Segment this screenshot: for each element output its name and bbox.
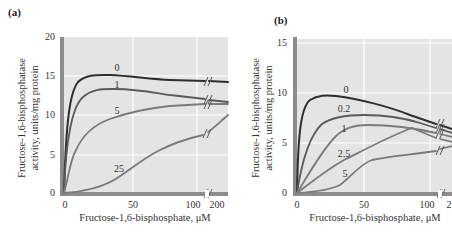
panel-b-curve-label-1: 1 <box>342 123 347 134</box>
panel-b-ytick-5: 5 <box>282 137 287 148</box>
panel-b-xtick-50: 50 <box>359 199 369 210</box>
panel-b-xtick-100: 100 <box>420 199 435 210</box>
panel-b-ytick-10: 10 <box>277 87 287 98</box>
panel-b-ytick-0: 0 <box>282 187 287 198</box>
panel-b-curve-label-0: 0 <box>344 84 349 95</box>
panel-a-curve-label-1: 1 <box>115 79 120 90</box>
panel-b-ytick-15: 15 <box>277 37 287 48</box>
panel-a-xtick-200: 200 <box>210 199 225 210</box>
panel-b-label: (b) <box>274 14 288 27</box>
panel-b-xtick-0: 0 <box>295 199 300 210</box>
panel-a-curve-label-5: 5 <box>115 105 120 116</box>
panel-b-curve-label-5: 5 <box>343 168 348 179</box>
panel-a-ytick-10: 10 <box>45 109 55 120</box>
panel-a-curve-label-0: 0 <box>115 62 120 73</box>
panel-a-curve-label-25: 25 <box>114 163 124 174</box>
panel-b-x-axis-title: Fructose-1,6-bisphosphate, μM <box>309 212 441 223</box>
panel-b-curve-label-0.2: 0.2 <box>338 103 351 114</box>
panel-a-x-axis <box>60 192 228 196</box>
panel-a-ytick-5: 5 <box>50 149 55 160</box>
panel-b-curve-label-2.5: 2.5 <box>338 148 351 159</box>
panel-a-ytick-15: 15 <box>45 70 55 81</box>
panel-b-x-axis <box>293 192 452 196</box>
panel-a-xtick-50: 50 <box>128 199 138 210</box>
panel-a-xtick-0: 0 <box>63 199 68 210</box>
panel-a-y-axis-title-line1: Fructose-1,6-bisphosphatase <box>16 58 27 178</box>
panel-a-y-axis-title-line2: activity, units/mg protein <box>29 65 40 171</box>
panel-b-y-axis-title-line1: Fructose-1,6-bisphosphatase <box>250 58 261 178</box>
panel-a-label: (a) <box>8 6 21 19</box>
panel-a-ytick-0: 0 <box>50 187 55 198</box>
panel-b-xtick-200: 2 <box>447 199 452 210</box>
figure: (a) 0 5 10 15 20 0 50 100 200 <box>0 0 452 239</box>
panel-b: (b) 0 5 10 15 0 50 100 2 Fructose-1,6-bi… <box>250 14 452 223</box>
panel-b-y-axis <box>293 37 297 196</box>
panel-a-y-axis <box>60 37 64 195</box>
panel-a: (a) 0 5 10 15 20 0 50 100 200 <box>8 6 228 223</box>
panel-a-xtick-100: 100 <box>186 199 201 210</box>
panel-b-y-axis-title-line2: activity, units/mg protein <box>263 65 274 171</box>
panel-a-x-axis-title: Fructose-1,6-bisphosphate, μM <box>79 212 211 223</box>
panel-a-ytick-20: 20 <box>45 31 55 42</box>
